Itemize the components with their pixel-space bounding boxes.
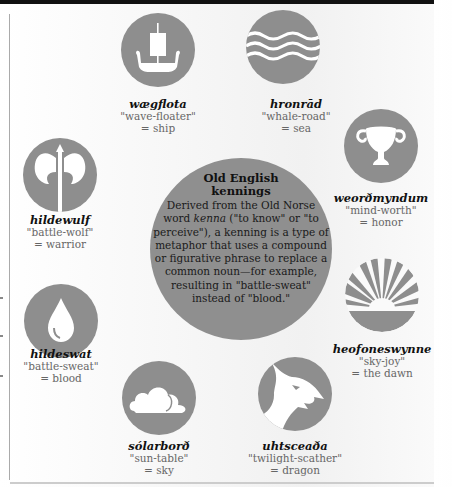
kenning-circle-warrior xyxy=(23,138,97,212)
top-rule xyxy=(0,0,434,4)
kenning-circle-sky xyxy=(122,361,196,435)
kenning-meaning: = dragon xyxy=(225,464,365,476)
kenning-literal: "wave-floater" xyxy=(88,110,228,122)
center-description: Derived from the Old Norse word kenna ("… xyxy=(152,199,330,305)
bottom-rule xyxy=(10,482,434,484)
kenning-label-sky: sólarborð "sun-table" = sky xyxy=(89,440,229,476)
margin-mark xyxy=(0,335,3,337)
kenning-meaning: = ship xyxy=(88,122,228,134)
kenning-meaning: = blood xyxy=(0,372,131,384)
kenning-literal: "mind-worth" xyxy=(311,204,451,216)
trophy-icon xyxy=(344,109,418,183)
kenning-circle-sea xyxy=(246,10,320,84)
kenning-term: heofoneswynne xyxy=(312,343,452,355)
kenning-literal: "battle-wolf" xyxy=(0,226,130,238)
dragon-icon xyxy=(258,357,332,431)
kenning-label-blood: hildeswat "battle-sweat" = blood xyxy=(0,348,131,384)
kenning-circle-dawn xyxy=(345,258,419,332)
kenning-literal: "sky-joy" xyxy=(312,355,452,367)
center-definition-circle: Old English kennings Derived from the Ol… xyxy=(150,158,332,340)
kenning-meaning: = warrior xyxy=(0,238,130,250)
kenning-term: hildeswat xyxy=(0,348,131,360)
waves-icon xyxy=(246,10,320,84)
kenning-term: uhtsceaða xyxy=(225,440,365,452)
description-italic-word: kenna xyxy=(194,212,226,224)
kenning-term: weorðmyndum xyxy=(311,192,451,204)
kenning-circle-ship xyxy=(121,13,195,87)
kenning-literal: "battle-sweat" xyxy=(0,360,131,372)
kenning-term: hildewulf xyxy=(0,214,130,226)
kenning-label-honor: weorðmyndum "mind-worth" = honor xyxy=(311,192,451,228)
kenning-meaning: = the dawn xyxy=(312,367,452,379)
axe-icon xyxy=(23,138,97,212)
kenning-circle-dragon xyxy=(258,357,332,431)
kenning-label-dawn: heofoneswynne "sky-joy" = the dawn xyxy=(312,343,452,379)
sunrise-icon xyxy=(345,258,419,332)
kenning-term: hronrād xyxy=(226,98,366,110)
kenning-literal: "sun-table" xyxy=(89,452,229,464)
kenning-meaning: = sky xyxy=(89,464,229,476)
margin-mark xyxy=(0,297,3,299)
kenning-meaning: = sea xyxy=(226,122,366,134)
kenning-label-warrior: hildewulf "battle-wolf" = warrior xyxy=(0,214,130,250)
kenning-term: sólarborð xyxy=(89,440,229,452)
center-title: Old English kennings xyxy=(181,172,301,198)
ship-icon xyxy=(121,13,195,87)
kenning-circle-honor xyxy=(344,109,418,183)
cloud-icon xyxy=(122,361,196,435)
description-text: ("to know" or "to perceive"), a kenning … xyxy=(153,212,328,304)
kenning-label-ship: wægflota "wave-floater" = ship xyxy=(88,98,228,134)
kenning-literal: "twilight-scather" xyxy=(225,452,365,464)
kenning-term: wægflota xyxy=(88,98,228,110)
kenning-literal: "whale-road" xyxy=(226,110,366,122)
kenning-label-sea: hronrād "whale-road" = sea xyxy=(226,98,366,134)
kenning-label-dragon: uhtsceaða "twilight-scather" = dragon xyxy=(225,440,365,476)
kenning-meaning: = honor xyxy=(311,216,451,228)
